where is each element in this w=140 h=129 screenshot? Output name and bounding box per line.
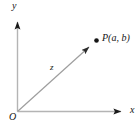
vector-z-label: z (50, 63, 54, 72)
vector-diagram-figure: y x O z P(a, b) (0, 0, 140, 129)
y-axis-label: y (12, 1, 16, 11)
point-p-label: P(a, b) (102, 33, 130, 43)
diagram-canvas (0, 0, 140, 129)
origin-label: O (9, 112, 16, 122)
x-axis-label: x (130, 105, 134, 115)
vector-z-line (18, 47, 90, 112)
point-p-dot (94, 38, 99, 43)
